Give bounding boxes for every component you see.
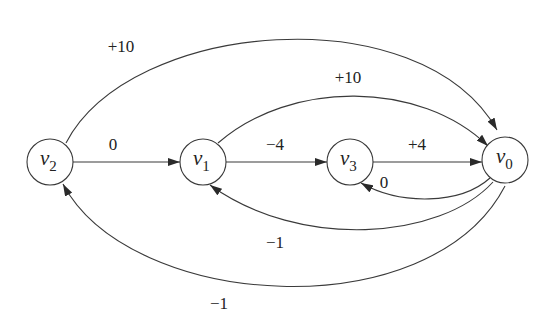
label-v1-v3: −4 — [266, 135, 285, 154]
node-v1: v1 — [180, 139, 226, 185]
label-v3-v0: +4 — [408, 135, 427, 154]
label-v2-v0: +10 — [108, 37, 135, 56]
node-v2: v2 — [27, 139, 73, 185]
graph-diagram: v2 v1 v3 v0 0 −4 +4 +10 +10 0 −1 −1 — [0, 0, 547, 333]
label-v2-v1: 0 — [109, 135, 118, 154]
label-v0-v2: −1 — [210, 294, 228, 313]
node-v0: v0 — [482, 137, 528, 183]
label-v0-v1: −1 — [266, 233, 284, 252]
label-v1-v0: +10 — [335, 68, 362, 87]
node-v3: v3 — [327, 139, 373, 185]
edge-v1-v0 — [218, 96, 488, 146]
label-v0-v3: 0 — [380, 173, 389, 192]
edge-v0-v1 — [210, 182, 493, 230]
